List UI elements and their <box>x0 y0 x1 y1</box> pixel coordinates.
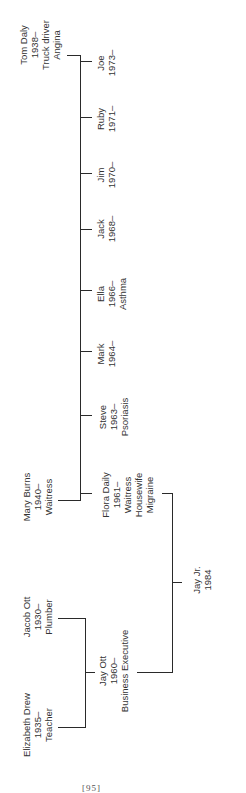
person-ruby: Ruby 1971– <box>95 106 117 132</box>
person-jay-ott: Jay Ott 1960– Business Executive <box>97 630 130 712</box>
jay-ott-connector <box>85 672 95 673</box>
person-mark: Mark 1964– <box>95 341 117 367</box>
person-mary-burns: Mary Burns 1940– Waitress <box>21 473 54 522</box>
jayott-to-jayjr-connector <box>137 672 173 673</box>
joe-connector <box>80 61 92 62</box>
page-number: [95] <box>82 783 101 793</box>
person-jim: Jim 1970– <box>95 162 117 188</box>
ella-connector <box>80 290 92 291</box>
mark-connector <box>80 351 92 352</box>
person-elizabeth-drew: Elizabeth Drew 1935– Teacher <box>21 693 54 757</box>
ruby-connector <box>80 117 92 118</box>
person-tom-daly: Tom Daly 1938– Truck driver Angina <box>18 20 62 70</box>
jack-connector <box>80 229 92 230</box>
jim-connector <box>80 173 92 174</box>
person-jack: Jack 1968– <box>95 216 117 242</box>
person-jay-jr: Jay Jr. 1984 <box>191 566 213 593</box>
person-joe: Joe 1973– <box>95 50 117 76</box>
person-jacob-ott: Jacob Ott 1930– Plumber <box>21 597 54 638</box>
daly-sibship-line <box>80 55 81 501</box>
person-steve: Steve 1963– Psoriasis <box>97 398 130 437</box>
steve-connector <box>80 415 92 416</box>
tom-daly-connector <box>67 55 81 56</box>
person-flora-daily: Flora Daily 1961– Waitress Housewife Mig… <box>100 472 155 517</box>
jacob-ott-connector <box>58 618 86 619</box>
person-ella: Ella 1966– Asthma <box>95 278 128 310</box>
elizabeth-drew-connector <box>58 727 86 728</box>
flora-connector <box>80 493 92 494</box>
jayjr-connector <box>172 582 182 583</box>
mary-burns-connector <box>58 500 81 501</box>
